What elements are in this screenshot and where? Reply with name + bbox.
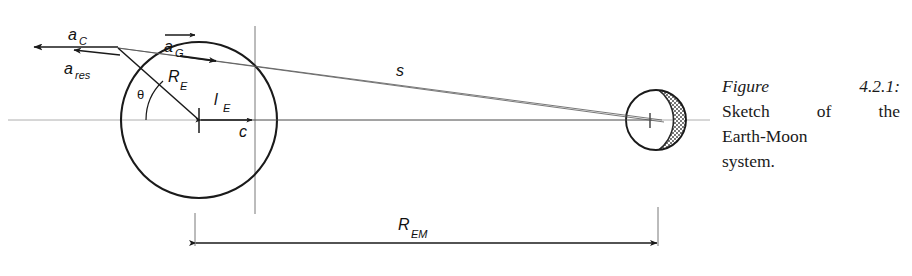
- label-r-em: R EM: [398, 216, 428, 240]
- label-l-e: l E: [214, 91, 231, 114]
- caption-word-the: the: [879, 99, 900, 124]
- label-s: s: [396, 62, 404, 79]
- label-a-g-base: a: [164, 38, 173, 55]
- label-a-g-sub: G: [175, 47, 184, 59]
- label-r-em-base: R: [398, 216, 410, 233]
- label-a-res-base: a: [64, 60, 73, 77]
- label-r-em-sub: EM: [411, 228, 428, 240]
- caption-line-4: system.: [722, 149, 900, 174]
- label-l-e-sub: E: [223, 102, 231, 114]
- label-a-res: a res: [64, 60, 91, 81]
- label-a-g: a G: [164, 35, 195, 59]
- caption-word-of: of: [817, 99, 832, 124]
- caption-line-3: Earth-Moon: [722, 124, 900, 149]
- label-r-e: R E: [168, 68, 188, 92]
- theta-arc: [146, 81, 163, 120]
- label-r-e-base: R: [168, 68, 180, 85]
- label-r-e-sub: E: [180, 80, 188, 92]
- a-res-arrow: [74, 50, 120, 55]
- caption-word-sketch: Sketch: [722, 99, 770, 124]
- a-g-arrow: [180, 56, 216, 61]
- label-l-e-base: l: [214, 91, 218, 108]
- label-a-c-sub: C: [79, 35, 87, 47]
- label-theta: θ: [137, 87, 144, 102]
- label-c: c: [239, 123, 247, 140]
- label-a-c: a C: [68, 26, 87, 47]
- caption-line-1: Figure 4.2.1:: [722, 74, 900, 99]
- figure-container: a C a res a G R E θ l E c s: [0, 0, 912, 276]
- figure-caption: Figure 4.2.1: Sketch of the Earth-Moon s…: [722, 74, 900, 174]
- label-a-res-sub: res: [75, 69, 91, 81]
- caption-figure-word: Figure: [722, 74, 769, 99]
- caption-figure-number: 4.2.1:: [859, 74, 900, 99]
- caption-line-2: Sketch of the: [722, 99, 900, 124]
- label-a-c-base: a: [68, 26, 77, 43]
